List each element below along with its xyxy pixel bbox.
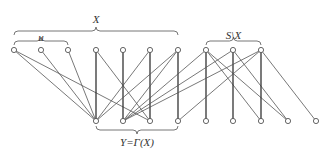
graph-node xyxy=(203,118,208,123)
label-y-gamma-x: Y=Γ(X) xyxy=(120,136,154,148)
graph-node xyxy=(147,118,152,123)
graph-edge xyxy=(68,50,96,121)
graph-node xyxy=(313,118,318,123)
graph-node xyxy=(258,47,263,52)
graph-node xyxy=(203,47,208,52)
graph-edge xyxy=(261,50,316,121)
graph-node xyxy=(175,47,180,52)
graph-svg xyxy=(0,0,327,158)
graph-edge xyxy=(123,50,206,121)
graph-node xyxy=(65,47,70,52)
graph-edge xyxy=(96,50,178,121)
graph-edge xyxy=(178,50,261,121)
graph-node xyxy=(120,118,125,123)
graph-node xyxy=(93,118,98,123)
edges xyxy=(14,50,316,121)
graph-node xyxy=(230,47,235,52)
graph-node xyxy=(147,47,152,52)
graph-node xyxy=(285,118,290,123)
graph-node xyxy=(38,47,43,52)
label-x-set: X xyxy=(93,13,100,25)
graph-edge xyxy=(41,50,96,121)
graph-node xyxy=(11,47,16,52)
graph-edge xyxy=(206,50,288,121)
brace-y xyxy=(96,126,178,134)
braces xyxy=(14,27,261,134)
graph-edge xyxy=(14,50,96,121)
label-s-minus-x: S\X xyxy=(226,29,241,41)
label-u-set: u xyxy=(38,31,44,43)
graph-node xyxy=(93,47,98,52)
graph-node xyxy=(258,118,263,123)
graph-node xyxy=(175,118,180,123)
graph-node xyxy=(230,118,235,123)
graph-node xyxy=(120,47,125,52)
graph-edge xyxy=(123,50,261,121)
bipartite-graph-diagram: X u S\X Y=Γ(X) xyxy=(0,0,327,158)
